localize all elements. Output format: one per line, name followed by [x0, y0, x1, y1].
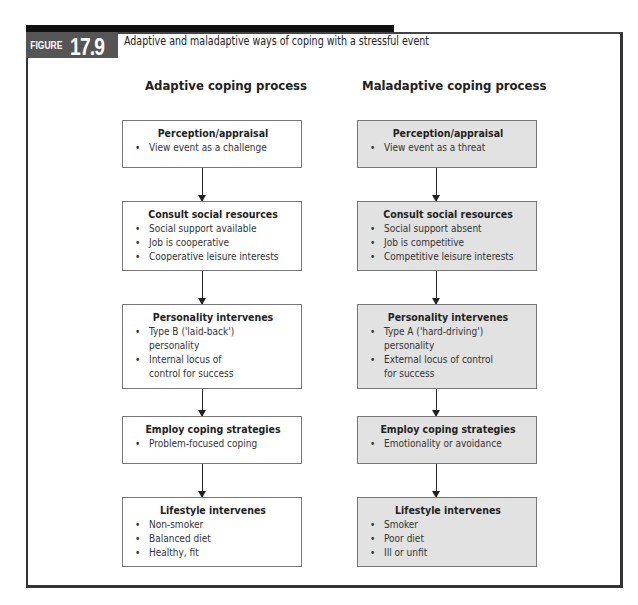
- box-title: Personality intervenes: [133, 311, 293, 323]
- maladaptive-box-coping: Employ coping strategies Emotionality or…: [357, 416, 537, 464]
- box-item: Problem-focused coping: [133, 437, 293, 451]
- box-item: Type A ('hard-driving') personality: [368, 325, 496, 353]
- arrow-down-icon: [436, 389, 437, 416]
- box-item: Competitive leisure interests: [368, 250, 528, 264]
- adaptive-box-perception: Perception/appraisal View event as a cha…: [122, 120, 302, 168]
- box-item: Poor diet: [368, 532, 528, 546]
- box-item: External locus of control for success: [368, 353, 496, 381]
- box-item: Social support available: [133, 222, 293, 236]
- box-item: Emotionality or avoidance: [368, 437, 528, 451]
- figure-label: FIGURE 17.9: [26, 32, 118, 58]
- box-title: Personality intervenes: [368, 311, 528, 323]
- maladaptive-box-social: Consult social resources Social support …: [357, 201, 537, 271]
- arrow-down-icon: [436, 464, 437, 497]
- box-item: Healthy, fit: [133, 546, 293, 560]
- box-item: Job is competitive: [368, 236, 528, 250]
- arrow-down-icon: [436, 271, 437, 304]
- maladaptive-box-personality: Personality intervenes Type A ('hard-dri…: [357, 304, 537, 389]
- box-item: Internal locus of control for success: [133, 353, 253, 381]
- box-item: Job is cooperative: [133, 236, 293, 250]
- box-item: Non-smoker: [133, 518, 293, 532]
- box-title: Consult social resources: [368, 208, 528, 220]
- maladaptive-column-title: Maladaptive coping process: [362, 78, 546, 93]
- box-item: Cooperative leisure interests: [133, 250, 293, 264]
- adaptive-box-personality: Personality intervenes Type B ('laid-bac…: [122, 304, 302, 389]
- adaptive-column-title: Adaptive coping process: [145, 78, 307, 93]
- arrow-down-icon: [202, 389, 203, 416]
- maladaptive-box-lifestyle: Lifestyle intervenes Smoker Poor diet Il…: [357, 497, 537, 567]
- box-title: Employ coping strategies: [133, 423, 293, 435]
- box-item: Ill or unfit: [368, 546, 528, 560]
- maladaptive-box-perception: Perception/appraisal View event as a thr…: [357, 120, 537, 168]
- arrow-down-icon: [202, 464, 203, 497]
- box-item: Social support absent: [368, 222, 528, 236]
- adaptive-box-coping: Employ coping strategies Problem-focused…: [122, 416, 302, 464]
- box-item: View event as a challenge: [133, 141, 293, 155]
- box-title: Perception/appraisal: [368, 127, 528, 139]
- adaptive-box-social: Consult social resources Social support …: [122, 201, 302, 271]
- arrow-down-icon: [436, 168, 437, 201]
- box-title: Perception/appraisal: [133, 127, 293, 139]
- box-title: Lifestyle intervenes: [133, 504, 293, 516]
- box-item: View event as a threat: [368, 141, 528, 155]
- box-item: Balanced diet: [133, 532, 293, 546]
- arrow-down-icon: [202, 168, 203, 201]
- figure-caption: Adaptive and maladaptive ways of coping …: [124, 34, 429, 48]
- box-title: Consult social resources: [133, 208, 293, 220]
- box-item: Smoker: [368, 518, 528, 532]
- box-item: Type B ('laid-back') personality: [133, 325, 253, 353]
- arrow-down-icon: [202, 271, 203, 304]
- box-title: Lifestyle intervenes: [368, 504, 528, 516]
- adaptive-box-lifestyle: Lifestyle intervenes Non-smoker Balanced…: [122, 497, 302, 567]
- figure-number: 17.9: [70, 33, 104, 61]
- box-title: Employ coping strategies: [368, 423, 528, 435]
- figure-word: FIGURE: [26, 40, 62, 58]
